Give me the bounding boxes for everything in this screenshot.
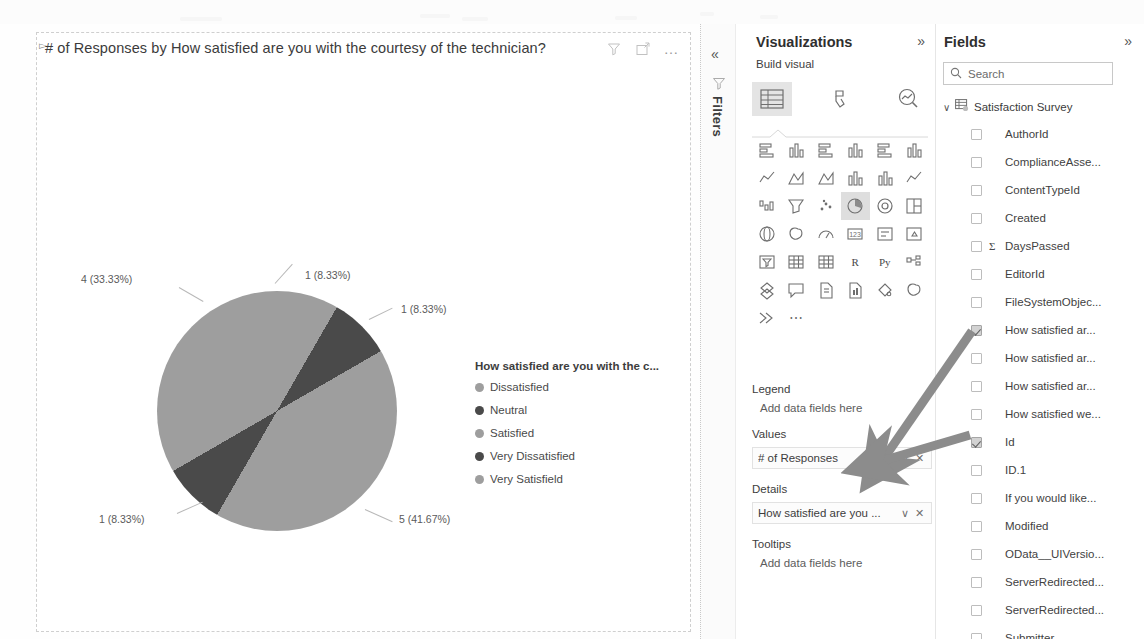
legend-well-dropzone[interactable]: Add data fields here bbox=[752, 402, 932, 414]
details-well-chip[interactable]: How satisfied are you ... ∨ ✕ bbox=[752, 502, 932, 524]
map-icon[interactable] bbox=[752, 220, 782, 248]
stacked-area-chart-icon[interactable] bbox=[811, 164, 841, 192]
card-icon[interactable]: 123 bbox=[841, 220, 871, 248]
field-checkbox[interactable] bbox=[971, 381, 982, 392]
focus-mode-icon[interactable] bbox=[635, 41, 651, 57]
100-stacked-column-chart-icon[interactable] bbox=[900, 136, 930, 164]
field-checkbox[interactable] bbox=[971, 353, 982, 364]
field-checkbox[interactable] bbox=[971, 437, 982, 448]
python-visual-icon[interactable]: Py bbox=[870, 248, 900, 276]
field-list-item[interactable]: If you would like... bbox=[943, 484, 1141, 512]
matrix-icon[interactable] bbox=[811, 248, 841, 276]
line-clustered-column-chart-icon[interactable] bbox=[870, 164, 900, 192]
power-automate-icon[interactable] bbox=[900, 276, 930, 304]
more-options-icon[interactable]: … bbox=[664, 44, 681, 54]
expand-chevron-icon[interactable]: » bbox=[917, 33, 925, 49]
field-checkbox[interactable] bbox=[971, 241, 982, 252]
collapse-chevron-icon[interactable]: « bbox=[711, 46, 719, 62]
chevron-down-icon[interactable]: ∨ bbox=[898, 452, 912, 465]
slicer-icon[interactable] bbox=[752, 248, 782, 276]
field-list-item[interactable]: ServerRedirected... bbox=[943, 596, 1141, 624]
power-apps-icon[interactable] bbox=[870, 276, 900, 304]
line-stacked-column-chart-icon[interactable] bbox=[841, 164, 871, 192]
pie-chart[interactable]: 1 (8.33%) 1 (8.33%) 5 (41.67%) 1 (8.33%)… bbox=[157, 291, 397, 531]
build-visual-tab[interactable] bbox=[752, 82, 792, 116]
100-stacked-bar-chart-icon[interactable] bbox=[870, 136, 900, 164]
smart-narrative-icon[interactable] bbox=[811, 276, 841, 304]
fields-table-node[interactable]: ∨ Satisfaction Survey bbox=[943, 98, 1072, 116]
field-checkbox[interactable] bbox=[971, 493, 982, 504]
area-chart-icon[interactable] bbox=[782, 164, 812, 192]
field-list-item[interactable]: How satisfied ar... bbox=[943, 316, 1141, 344]
legend-item[interactable]: Satisfied bbox=[475, 427, 700, 439]
field-checkbox[interactable] bbox=[971, 269, 982, 280]
field-checkbox[interactable] bbox=[971, 465, 982, 476]
expand-chevron-icon[interactable]: » bbox=[1124, 33, 1132, 49]
chevron-down-icon[interactable]: ∨ bbox=[898, 507, 912, 520]
r-script-visual-icon[interactable]: R bbox=[841, 248, 871, 276]
field-list-item[interactable]: Created bbox=[943, 204, 1141, 232]
field-list-item[interactable]: AuthorId bbox=[943, 120, 1141, 148]
field-checkbox[interactable] bbox=[971, 157, 982, 168]
stacked-column-chart-icon[interactable] bbox=[782, 136, 812, 164]
field-list-item[interactable]: EditorId bbox=[943, 260, 1141, 288]
filters-pane-collapsed[interactable]: « Filters bbox=[700, 24, 736, 639]
remove-field-icon[interactable]: ✕ bbox=[912, 507, 927, 520]
field-checkbox[interactable] bbox=[971, 605, 982, 616]
gauge-icon[interactable] bbox=[811, 220, 841, 248]
field-list-item[interactable]: How satisfied ar... bbox=[943, 372, 1141, 400]
pie-chart-visual[interactable]: ▻ # of Responses by How satisfied are yo… bbox=[36, 32, 691, 632]
field-list-item[interactable]: ComplianceAsse... bbox=[943, 148, 1141, 176]
filled-map-icon[interactable] bbox=[782, 220, 812, 248]
kpi-icon[interactable] bbox=[900, 220, 930, 248]
legend-item[interactable]: Very Satisfield bbox=[475, 473, 700, 485]
scatter-chart-icon[interactable] bbox=[811, 192, 841, 220]
fields-list[interactable]: AuthorIdComplianceAsse...ContentTypeIdCr… bbox=[943, 120, 1141, 639]
field-list-item[interactable]: Submitter bbox=[943, 624, 1141, 639]
table-icon[interactable] bbox=[782, 248, 812, 276]
legend-item[interactable]: Very Dissatisfied bbox=[475, 450, 700, 462]
more-visuals-icon[interactable]: ⋯ bbox=[782, 304, 812, 332]
treemap-icon[interactable] bbox=[900, 192, 930, 220]
field-checkbox[interactable] bbox=[971, 297, 982, 308]
field-list-item[interactable]: How satisfied ar... bbox=[943, 344, 1141, 372]
field-checkbox[interactable] bbox=[971, 129, 982, 140]
clustered-column-chart-icon[interactable] bbox=[841, 136, 871, 164]
field-list-item[interactable]: FileSystemObjec... bbox=[943, 288, 1141, 316]
field-list-item[interactable]: ServerRedirected... bbox=[943, 568, 1141, 596]
field-list-item[interactable]: ΣDaysPassed bbox=[943, 232, 1141, 260]
field-checkbox[interactable] bbox=[971, 521, 982, 532]
donut-chart-icon[interactable] bbox=[870, 192, 900, 220]
field-list-item[interactable]: How satisfied we... bbox=[943, 400, 1141, 428]
field-list-item[interactable]: OData__UIVersio... bbox=[943, 540, 1141, 568]
pie-slices[interactable] bbox=[157, 291, 397, 531]
values-well-chip[interactable]: # of Responses ∨ ✕ bbox=[752, 447, 932, 469]
decomposition-tree-icon[interactable] bbox=[752, 276, 782, 304]
remove-field-icon[interactable]: ✕ bbox=[912, 452, 927, 465]
clustered-bar-chart-icon[interactable] bbox=[811, 136, 841, 164]
field-list-item[interactable]: ContentTypeId bbox=[943, 176, 1141, 204]
qna-icon[interactable] bbox=[782, 276, 812, 304]
funnel-chart-icon[interactable] bbox=[782, 192, 812, 220]
field-list-item[interactable]: Modified bbox=[943, 512, 1141, 540]
field-checkbox[interactable] bbox=[971, 325, 982, 336]
field-checkbox[interactable] bbox=[971, 409, 982, 420]
paginated-report-icon[interactable] bbox=[841, 276, 871, 304]
ribbon-chart-icon[interactable] bbox=[900, 164, 930, 192]
filter-icon[interactable] bbox=[606, 41, 622, 57]
analytics-tab[interactable] bbox=[888, 82, 928, 116]
visualization-type-gallery[interactable]: 123RPy⋯ bbox=[752, 136, 930, 332]
arrow-visual-icon[interactable] bbox=[752, 304, 782, 332]
field-checkbox[interactable] bbox=[971, 549, 982, 560]
field-checkbox[interactable] bbox=[971, 185, 982, 196]
field-checkbox[interactable] bbox=[971, 577, 982, 588]
format-visual-tab[interactable] bbox=[820, 82, 860, 116]
waterfall-chart-icon[interactable] bbox=[752, 192, 782, 220]
line-chart-icon[interactable] bbox=[752, 164, 782, 192]
stacked-bar-chart-icon[interactable] bbox=[752, 136, 782, 164]
pie-chart-icon[interactable] bbox=[841, 192, 871, 220]
search-input[interactable]: Search bbox=[943, 62, 1113, 85]
field-checkbox[interactable] bbox=[971, 213, 982, 224]
field-checkbox[interactable] bbox=[971, 633, 982, 639]
chevron-down-icon[interactable]: ∨ bbox=[943, 102, 950, 113]
